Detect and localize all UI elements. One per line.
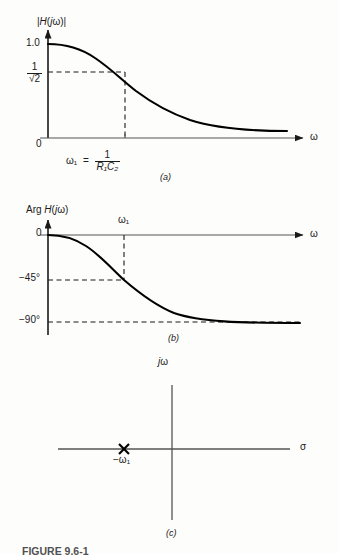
phase-y-axis-label: Arg H(jω) <box>26 205 68 215</box>
cutoff-denominator: R₁C₂ <box>95 162 120 173</box>
cutoff-fraction: 1 R₁C₂ <box>95 150 120 172</box>
phase-x-axis-label: ω <box>310 229 318 239</box>
cutoff-numerator: 1 <box>95 150 120 162</box>
pole-zero-real-axis-label: σ <box>300 442 306 452</box>
magnitude-ytick-1-label: 1.0 <box>26 38 40 48</box>
pole-label-minus-omega1: −ω₁ <box>113 455 130 465</box>
phase-xtick-omega1-label: ω₁ <box>118 215 129 225</box>
phase-ytick-0-label: 0 <box>36 228 42 238</box>
cutoff-equals-sign: = <box>80 156 92 166</box>
panel-tag-a: (a) <box>160 172 171 182</box>
cutoff-omega-symbol: ω₁ <box>66 156 77 166</box>
pole-zero-plot-svg <box>0 355 339 555</box>
invsqrt2-denominator: √2 <box>27 74 42 85</box>
phase-ytick-minus45-label: −45° <box>19 273 40 283</box>
figure-caption: FIGURE 9.6-1 <box>22 545 89 557</box>
phase-ytick-minus90-label: −90° <box>19 315 40 325</box>
magnitude-curve <box>48 44 287 131</box>
magnitude-y-axis-label: |H(jω)| <box>37 17 66 27</box>
magnitude-x-axis-label: ω <box>310 132 318 142</box>
magnitude-cutoff-expression: ω₁ = 1 R₁C₂ <box>66 150 120 172</box>
magnitude-ytick-invsqrt2-label: 1 √2 <box>27 62 42 84</box>
magnitude-plot-svg <box>0 0 339 190</box>
panel-tag-c: (c) <box>166 528 177 538</box>
phase-curve <box>48 235 300 323</box>
invsqrt2-numerator: 1 <box>27 62 42 74</box>
pole-zero-imaginary-axis-label: jω <box>158 357 168 367</box>
magnitude-ytick-0-label: 0 <box>36 139 42 149</box>
panel-tag-b: (b) <box>168 333 179 343</box>
